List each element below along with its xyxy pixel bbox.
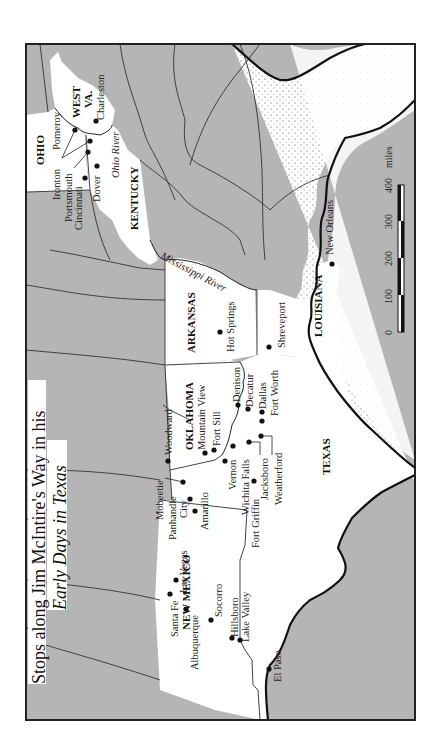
state-label-louisiana: LOUISIANA [312, 275, 324, 337]
place-santa-fe: Santa Fe [169, 600, 180, 637]
place-woodward: Woodward [163, 408, 174, 455]
scale-tick-0: 0 [383, 330, 394, 335]
place-weatherford: Weatherford [273, 452, 284, 505]
place-socorro: Socorro [213, 584, 224, 617]
state-label-west-va-2: VA. [82, 91, 94, 108]
scale-tick-200: 200 [383, 251, 394, 266]
title-line-2: Early Days in Texas [50, 465, 70, 611]
place-dallas: Dallas [257, 382, 268, 409]
place-panhandle-city-1: Panhandle [167, 496, 178, 540]
state-label-ohio: OHIO [34, 135, 46, 165]
place-pomeroy: Pomeroy [51, 111, 62, 150]
place-shreveport: Shreveport [276, 302, 287, 348]
scale-unit: miles [383, 146, 394, 168]
place-new-orleans: New Orleans [324, 200, 335, 255]
place-vernon: Vernon [227, 459, 238, 490]
scale-tick-300: 300 [383, 214, 394, 229]
place-amarillo: Amarillo [199, 492, 210, 530]
place-albuquerque: Albuquerque [189, 615, 200, 670]
place-las-vegas: Las Vegas [178, 550, 189, 593]
state-label-texas: TEXAS [320, 438, 332, 475]
place-hillsboro: Hillsboro [229, 597, 240, 637]
place-lake-valley: Lake Valley [240, 591, 251, 642]
scale-tick-400: 400 [383, 178, 394, 193]
place-cincinnati: Cincinnati [73, 186, 84, 230]
place-dover: Dover [91, 175, 102, 202]
river-label-ohio: Ohio River [110, 131, 121, 178]
place-ironton: Ironton [51, 168, 62, 200]
title-line-1: Stops along Jim McIntire's Way in his [29, 411, 49, 684]
state-label-oklahoma: OKLAHOMA [183, 382, 195, 450]
scale-tick-100: 100 [383, 289, 394, 304]
place-hot-springs: Hot Springs [225, 302, 236, 352]
place-mountain-view: Mountain View [196, 384, 207, 450]
map: Stops along Jim McIntire's Way in his Ea… [0, 0, 444, 735]
place-charleston: Charleston [95, 74, 106, 120]
place-fort-sill: Fort Sill [211, 411, 222, 446]
place-jacksboro: Jacksboro [259, 458, 270, 500]
place-panhandle-city-2: City [178, 499, 189, 518]
place-fort-griffin: Fort Griffin [250, 498, 261, 548]
state-label-arkansas: ARKANSAS [185, 292, 197, 353]
place-denison: Denison [231, 366, 242, 402]
place-decatur: Decatur [244, 373, 255, 407]
place-mobeetie: Mobeetie [154, 480, 165, 520]
state-label-kentucky: KENTUCKY [128, 166, 140, 230]
place-fort-worth: Fort Worth [269, 369, 280, 416]
state-label-west-va-1: WEST [70, 86, 82, 118]
place-el-paso: El Paso [272, 650, 283, 682]
